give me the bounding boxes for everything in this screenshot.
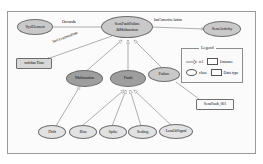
node-drift[interactable]: Spike: [99, 125, 127, 139]
node-failure[interactable]: Failure: [148, 67, 180, 82]
ellipse-icon: [186, 69, 197, 76]
node-lossofsignal[interactable]: LossOfSignal: [159, 124, 193, 139]
legend-label-datatype: Data type: [224, 71, 239, 75]
node-spike[interactable]: Drift: [38, 125, 66, 139]
edge-lossofsignal-to-fault: [134, 90, 172, 126]
edge-bias-to-fault: [82, 90, 124, 126]
node-sensfault-001-label: SensFault_001: [204, 102, 226, 106]
node-scaling-label: Scaling: [137, 130, 149, 134]
node-fault[interactable]: Fault: [110, 70, 146, 87]
legend-label-rel: rel: [199, 60, 203, 64]
legend-label-instance: Instance: [220, 60, 233, 64]
arrow-icon: [186, 59, 197, 65]
edge-center-to-sensactivity: [152, 27, 204, 29]
node-malfunction[interactable]: Malfunction: [66, 70, 103, 87]
legend-row-rel: rel Instance: [186, 58, 233, 65]
rectangle-icon: [207, 58, 218, 65]
node-xsd-datetime-label: xsd:dateTime: [24, 61, 44, 65]
node-bias-label: Bias: [80, 130, 87, 134]
node-spike-label: Drift: [48, 130, 55, 134]
node-scaling[interactable]: Scaling: [128, 125, 157, 139]
edge-drift-to-fault: [112, 90, 126, 126]
node-lossofsignal-label: LossOfSignal: [166, 129, 187, 133]
node-failure-label: Failure: [158, 72, 169, 76]
edge-sensfault001-to-failure: [176, 82, 199, 99]
node-fault-label: Fault: [124, 76, 132, 81]
node-syselement-label: SysElement: [26, 25, 45, 29]
node-sensfaultfailure-malfunction[interactable]: SensFaultFailure &Malfunction: [101, 16, 153, 38]
node-syselement[interactable]: SysElement: [17, 19, 53, 35]
legend-caption: Legend: [199, 45, 216, 50]
rectangle-icon-datatype: [211, 69, 222, 76]
legend-row-class: class Data type: [186, 69, 239, 76]
edge-label-occursin: OccursIn: [62, 19, 76, 24]
node-drift-label: Spike: [109, 130, 118, 134]
legend-box: Legend rel Instance class Data type: [181, 48, 243, 83]
node-center-label-line2: &Malfunction: [116, 28, 138, 32]
node-bias[interactable]: Bias: [69, 125, 97, 139]
node-center-label-line1: SensFaultFailure: [114, 22, 139, 26]
node-malfunction-label: Malfunction: [75, 76, 94, 80]
node-sensactivity-label: SensActivity: [212, 27, 232, 31]
legend-label-class: class: [199, 71, 207, 75]
diagram-canvas: SysElement SensFaultFailure &Malfunction…: [0, 0, 263, 164]
node-xsd-datetime[interactable]: xsd:dateTime: [16, 58, 52, 69]
node-sensactivity[interactable]: SensActivity: [203, 21, 241, 37]
edge-spike-to-malfunction: [56, 86, 80, 126]
edge-label-hascorrectiveaction: hasCorrectiveAction: [154, 18, 182, 22]
node-sensfault-001[interactable]: SensFault_001: [196, 99, 234, 110]
edge-failure-to-center: [134, 40, 164, 70]
edge-malfunction-to-center: [84, 40, 122, 73]
